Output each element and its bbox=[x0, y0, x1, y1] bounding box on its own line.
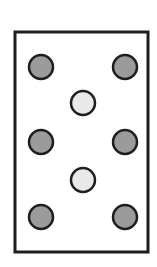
dark-dot bbox=[29, 55, 53, 79]
light-dot bbox=[71, 91, 95, 115]
dark-dot bbox=[29, 130, 53, 154]
dark-dot bbox=[29, 205, 53, 229]
dark-dot bbox=[113, 205, 137, 229]
dark-dot bbox=[113, 130, 137, 154]
dark-dot bbox=[113, 55, 137, 79]
light-dot bbox=[71, 168, 95, 192]
dot-pattern-figure bbox=[0, 0, 157, 267]
